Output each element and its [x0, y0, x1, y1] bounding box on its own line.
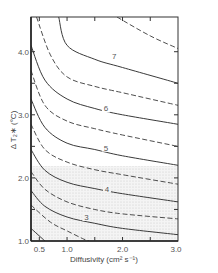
x-axis-title: Diffusivity (cm² s⁻¹) — [70, 255, 138, 264]
y-tick-label: 2.0 — [18, 174, 30, 183]
curve-label-5: 5 — [104, 144, 109, 153]
y-axis-title: Δ T₂∗ (°C) — [9, 110, 18, 149]
x-tick-label: 1.0 — [61, 245, 73, 254]
contour-line-6-5 — [37, 17, 179, 105]
curve-label-7: 7 — [112, 52, 117, 61]
shaded-region — [31, 166, 178, 241]
contour-line-7 — [59, 17, 178, 83]
x-tick-label: 2.0 — [117, 245, 129, 254]
curve-label-6: 6 — [104, 104, 109, 113]
y-tick-label: 4.0 — [18, 48, 30, 57]
contour-line-7-5 — [117, 17, 178, 49]
y-tick-label: 3.0 — [18, 111, 30, 120]
x-tick-label: 3.0 — [170, 245, 182, 254]
x-tick-label: 0.5 — [34, 245, 46, 254]
chart-canvas: 34567 0.51.02.03.01.02.03.04.0 Diffusivi… — [0, 0, 218, 273]
y-tick-label: 1.0 — [18, 237, 30, 246]
curve-label-4: 4 — [105, 185, 110, 194]
curve-label-3: 3 — [84, 213, 89, 222]
